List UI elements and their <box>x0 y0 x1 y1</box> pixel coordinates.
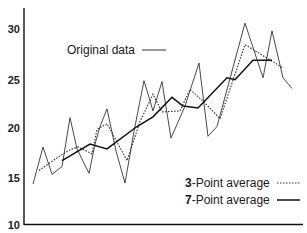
y-tick-25: 25 <box>8 74 20 86</box>
y-tick-30: 30 <box>8 23 20 35</box>
line-chart: 30 25 20 15 10 Original data 3-Point ave… <box>0 0 307 233</box>
y-tick-20: 20 <box>8 122 20 134</box>
legend-seven-point: 7-Point average <box>185 193 300 207</box>
legend-seven-point-label: 7-Point average <box>185 193 270 207</box>
legend-original: Original data <box>67 43 166 57</box>
three-point-average-line <box>39 45 283 171</box>
legend-three-point-label: 3-Point average <box>185 176 270 190</box>
legend-three-point: 3-Point average <box>185 176 300 190</box>
legend-original-label: Original data <box>67 43 135 57</box>
y-tick-10: 10 <box>8 219 20 231</box>
y-tick-15: 15 <box>8 172 20 184</box>
